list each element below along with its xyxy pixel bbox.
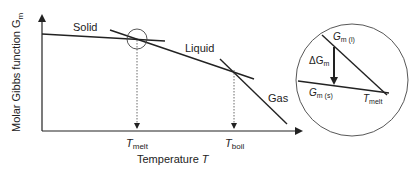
gibbs-diagram: Molar Gibbs function Gm Solid Liquid Gas… bbox=[0, 0, 416, 171]
inset-delta-g-label: ΔGm bbox=[309, 55, 329, 67]
y-axis-label: Molar Gibbs function Gm bbox=[10, 13, 25, 133]
gas-label: Gas bbox=[268, 92, 289, 104]
liquid-label: Liquid bbox=[185, 42, 214, 54]
inset-g-solid-label: Gm (s) bbox=[309, 87, 333, 100]
inset-magnification: Gm (l) ΔGm Gm (s) Tmelt bbox=[296, 24, 408, 136]
t-boil-label: Tboil bbox=[225, 137, 244, 151]
t-melt-label: Tmelt bbox=[126, 137, 149, 151]
inset-g-liquid-label: Gm (l) bbox=[333, 31, 355, 44]
x-axis-label: Temperature T bbox=[137, 153, 210, 165]
solid-label: Solid bbox=[73, 21, 97, 33]
inset-t-melt-label: Tmelt bbox=[363, 93, 382, 105]
